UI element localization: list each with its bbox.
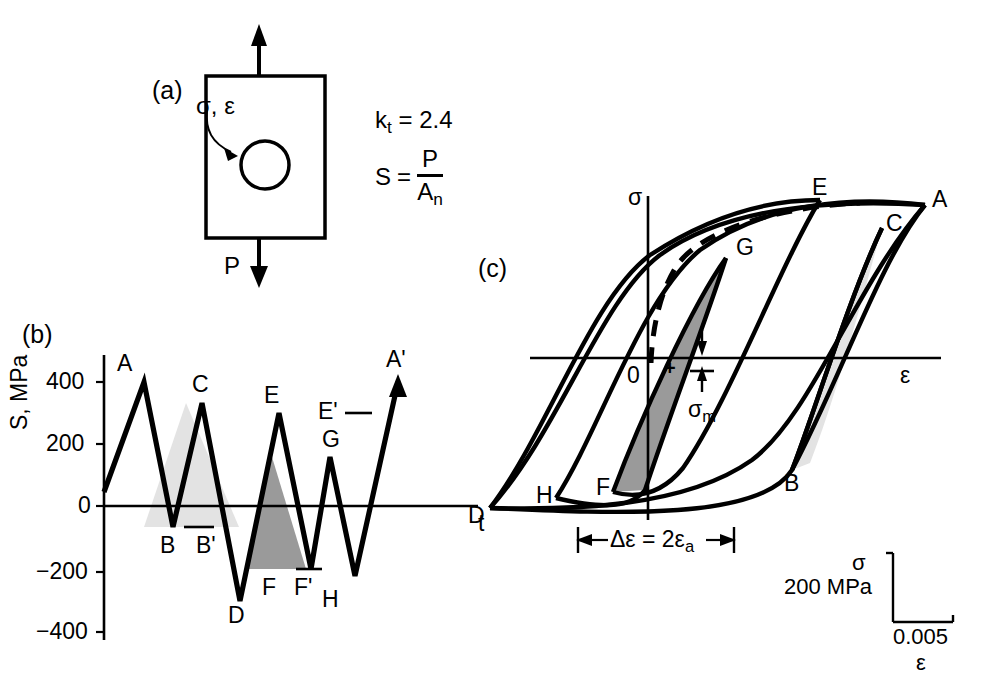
panel-c-label: (c) <box>478 256 507 281</box>
strain-range-subscript: a <box>685 537 694 556</box>
point-label-b-Bprime: B' <box>196 534 216 557</box>
ytick-label-minus200: −200 <box>36 560 88 583</box>
panel-b-plot <box>96 355 478 640</box>
point-label-c-A: A <box>932 188 947 211</box>
scale-bar <box>886 553 953 622</box>
scale-bar-strain-symbol: ε <box>916 652 926 674</box>
load-arrow-top-head <box>251 24 267 46</box>
ytick-label-0: 0 <box>78 494 91 517</box>
sigma-m-arrow-down-head <box>697 341 707 356</box>
sigma-m-symbol: σ <box>688 396 702 422</box>
point-label-c-B: B <box>784 472 799 495</box>
fraction-bar <box>417 174 443 177</box>
point-label-b-A: A <box>117 352 132 375</box>
panel-c-y-axis-label: σ <box>628 186 642 209</box>
denominator-symbol: A <box>417 178 433 205</box>
outer-loop-upper-branch <box>490 203 925 508</box>
branch-a-to-b <box>792 205 925 470</box>
point-label-b-Aprime: A' <box>386 348 406 371</box>
point-label-c-E: E <box>812 176 827 199</box>
strain-range-label: Δε = 2εa <box>610 528 694 555</box>
history-arrow-head <box>389 374 407 397</box>
kt-equation: kt = 2.4 <box>375 108 453 136</box>
ytick-label-400: 400 <box>46 370 84 393</box>
point-label-c-C: C <box>886 212 903 235</box>
point-label-b-Fprime: F' <box>294 576 312 599</box>
point-label-b-C: C <box>192 373 209 396</box>
scale-bar-stress-value: 200 MPa <box>784 576 872 598</box>
point-label-b-B: B <box>160 534 175 557</box>
point-label-b-F: F <box>262 576 276 599</box>
point-label-c-H: H <box>536 484 553 507</box>
nominal-stress-fraction: P An <box>417 146 443 208</box>
scale-bar-stress-symbol: σ <box>852 552 866 574</box>
kt-value: 2.4 <box>419 106 452 133</box>
sigma-m-subscript: m <box>702 407 716 426</box>
nominal-stress-relation: = <box>397 165 411 189</box>
panel-c-plot <box>490 196 941 553</box>
point-label-b-G: G <box>322 428 340 451</box>
strain-range-text: Δε = 2ε <box>610 526 685 552</box>
point-label-c-G: G <box>736 236 754 259</box>
point-label-b-Eprime: E' <box>318 400 338 423</box>
point-label-b-E: E <box>264 384 279 407</box>
panel-a-label: (a) <box>152 78 183 103</box>
ytick-label-200: 200 <box>46 432 84 455</box>
nominal-stress-lhs: S <box>375 165 391 189</box>
point-label-c-D: D <box>468 504 485 527</box>
panel-b-y-axis-label: S, MPa <box>8 355 31 430</box>
hole-annotation-label: σ, ε <box>196 94 235 118</box>
panel-a-specimen <box>206 24 325 288</box>
mean-point-marker: + <box>664 358 676 378</box>
hole-pointer-head <box>224 148 238 161</box>
figure-root: (a) σ, ε P kt = 2.4 S = P An (b) S, MPa … <box>0 0 987 688</box>
nominal-stress-numerator: P <box>422 146 438 172</box>
sigma-m-arrow-up-head <box>697 366 707 381</box>
denominator-subscript: n <box>433 188 443 208</box>
nominal-stress-equation: S = P An <box>375 146 443 208</box>
load-label-bottom: P <box>224 254 240 278</box>
scale-bar-strain-value: 0.005 <box>893 626 948 648</box>
point-label-b-D: D <box>228 604 245 627</box>
panel-c-origin-label: 0 <box>627 364 640 387</box>
point-label-c-F: F <box>596 476 610 499</box>
panel-c-x-axis-label: ε <box>900 364 910 387</box>
point-label-b-H: H <box>322 588 339 611</box>
nominal-stress-denominator: An <box>417 179 443 208</box>
kt-symbol: k <box>375 106 387 133</box>
sigma-m-label: σm <box>688 398 716 425</box>
kt-relation: = <box>392 106 419 133</box>
ytick-label-minus400: −400 <box>36 620 88 643</box>
center-hole <box>241 141 289 189</box>
panel-b-label: (b) <box>22 322 53 347</box>
load-arrow-bottom-head <box>250 266 268 288</box>
